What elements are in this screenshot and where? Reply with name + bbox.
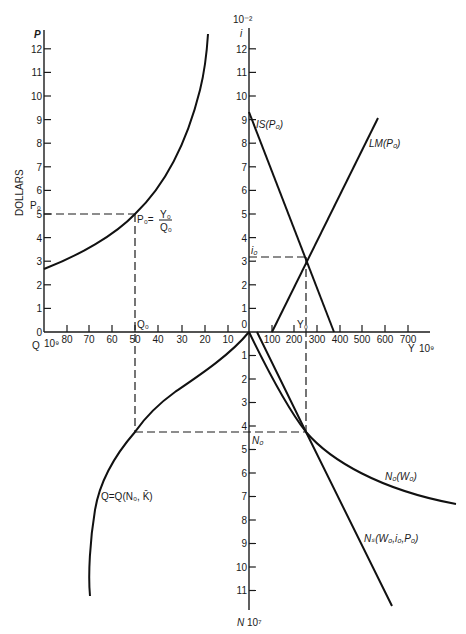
q-axis-label: Q [32, 340, 40, 351]
svg-text:400: 400 [332, 334, 349, 345]
svg-text:8: 8 [241, 515, 247, 526]
svg-text:9: 9 [241, 115, 247, 126]
svg-text:6: 6 [241, 468, 247, 479]
svg-text:500: 500 [354, 334, 371, 345]
p-axis-label: P [34, 29, 41, 40]
svg-text:2: 2 [36, 280, 42, 291]
svg-text:0: 0 [241, 319, 247, 330]
svg-text:4: 4 [36, 233, 42, 244]
svg-text:5: 5 [241, 444, 247, 455]
dollars-label: DOLLARS [14, 169, 25, 216]
svg-text:8: 8 [36, 138, 42, 149]
svg-text:100: 100 [264, 334, 281, 345]
q0-label: Q₀ [137, 319, 149, 330]
svg-text:0: 0 [36, 327, 42, 338]
svg-text:10: 10 [222, 334, 234, 345]
svg-text:10: 10 [31, 91, 43, 102]
p0-equation-left: P₀= [137, 214, 154, 225]
svg-text:7: 7 [241, 491, 247, 502]
svg-text:12: 12 [236, 44, 248, 55]
svg-text:60: 60 [106, 334, 118, 345]
svg-text:40: 40 [152, 334, 164, 345]
n-axis-label: N [237, 617, 245, 628]
svg-text:600: 600 [377, 334, 394, 345]
n-axis-ticks [249, 356, 256, 591]
svg-text:7: 7 [241, 162, 247, 173]
n-axis-scale: 10⁷ [247, 617, 262, 628]
svg-text:8: 8 [241, 138, 247, 149]
svg-text:5: 5 [241, 209, 247, 220]
four-quadrant-diagram: 0 1 2 3 4 5 6 7 8 9 10 11 12 P DOLLARS 0… [0, 0, 466, 634]
lm-curve [272, 118, 378, 332]
svg-text:2: 2 [241, 374, 247, 385]
i-axis-tick-labels: 0 1 2 3 4 5 6 7 8 9 10 11 12 [236, 44, 248, 331]
is-label: IS(P₀) [256, 119, 283, 130]
is-curve [249, 112, 334, 332]
svg-text:10: 10 [236, 91, 248, 102]
svg-text:3: 3 [241, 256, 247, 267]
svg-text:11: 11 [32, 67, 43, 78]
svg-text:1: 1 [241, 303, 247, 314]
y-axis-label: Y [408, 343, 415, 354]
i-axis-ticks [249, 49, 256, 309]
svg-text:12: 12 [31, 44, 43, 55]
svg-text:11: 11 [237, 67, 248, 78]
svg-text:20: 20 [199, 334, 211, 345]
q-axis-scale: 10⁹ [44, 338, 59, 349]
labor-supply-curve [257, 332, 392, 606]
svg-text:70: 70 [83, 334, 95, 345]
svg-text:3: 3 [36, 256, 42, 267]
price-curve [44, 34, 208, 269]
n0-label: N₀ [252, 435, 263, 446]
y-axis-tick-labels: 100 200 300 400 500 600 700 [264, 334, 417, 345]
svg-text:6: 6 [241, 185, 247, 196]
svg-text:6: 6 [36, 185, 42, 196]
p0-equation-numerator: Y₀ [160, 209, 171, 220]
p0-axis-label: P₀ [30, 200, 41, 211]
svg-text:2: 2 [241, 280, 247, 291]
y-axis-ticks [272, 325, 408, 332]
svg-text:4: 4 [241, 421, 247, 432]
q-axis-tick-labels: 80 70 60 50 40 30 20 10 [61, 334, 234, 345]
production-function-curve [89, 332, 249, 596]
labor-demand-curve [249, 332, 456, 504]
i-axis-label: i [240, 28, 243, 39]
svg-text:30: 30 [176, 334, 188, 345]
p-axis-tick-labels: 0 1 2 3 4 5 6 7 8 9 10 11 12 [31, 44, 43, 339]
svg-text:4: 4 [241, 233, 247, 244]
svg-text:7: 7 [36, 162, 42, 173]
i0-label: i₀ [251, 245, 257, 256]
production-function-label: Q=Q(N₀, K̄) [101, 490, 153, 502]
svg-text:3: 3 [241, 397, 247, 408]
lm-label: LM(P₀) [369, 138, 400, 149]
labor-supply-label: Nₛ(W₀,i₀,P₀) [364, 533, 418, 544]
svg-text:11: 11 [237, 585, 248, 596]
svg-text:200: 200 [286, 334, 303, 345]
y-axis-scale: 10⁹ [419, 343, 434, 354]
svg-text:9: 9 [36, 115, 42, 126]
i-axis-scale: 10⁻² [233, 14, 253, 25]
svg-text:10: 10 [236, 562, 248, 573]
svg-text:9: 9 [241, 538, 247, 549]
labor-demand-label: N₀(W₀) [385, 471, 417, 482]
svg-text:80: 80 [61, 334, 73, 345]
n-axis-tick-labels: 1 2 3 4 5 6 7 8 9 10 11 [236, 350, 248, 596]
p0-equation-denominator: Q₀ [160, 222, 172, 233]
y0-label: Y₀ [297, 319, 308, 330]
svg-text:300: 300 [309, 334, 326, 345]
svg-text:1: 1 [36, 303, 42, 314]
svg-text:1: 1 [241, 350, 247, 361]
